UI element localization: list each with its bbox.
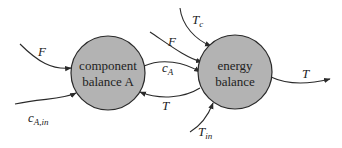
edge-T-output [271,77,330,83]
block-diagram: component balance A energy balance F cA,… [0,0,342,148]
component-balance-node: component balance A [71,36,145,110]
component-balance-label-line1: component [79,58,137,73]
component-balance-label-line2: balance A [82,74,134,89]
label-F-component: F [37,44,47,59]
label-Tin: Tin [198,124,213,141]
energy-balance-label-line1: energy [217,58,253,73]
energy-balance-label-line2: balance [215,74,255,89]
label-Tc: Tc [192,12,203,29]
edge-F-to-energy [150,32,202,62]
energy-balance-node: energy balance [198,35,272,109]
edge-cAin-to-component [15,93,76,104]
edge-T-energy-to-component [140,88,200,97]
label-cAin: cA,in [28,110,49,127]
label-F-energy: F [167,34,177,49]
label-T-return: T [162,98,170,113]
label-T-output: T [302,66,310,81]
